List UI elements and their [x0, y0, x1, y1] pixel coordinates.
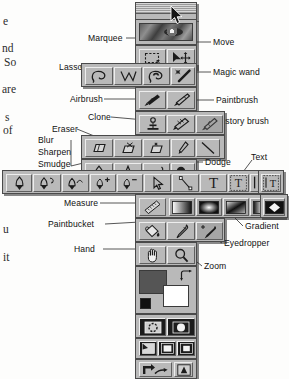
tool-angle-gradient[interactable] [223, 198, 249, 216]
callout-label-smudge: Smudge [38, 160, 71, 169]
tool-eyedropper[interactable] [167, 222, 195, 240]
freeform-pen-icon [66, 176, 85, 191]
pencil-icon [176, 141, 191, 155]
toolbox-titlebar[interactable] [136, 3, 196, 14]
eyedropper-icon [172, 224, 191, 239]
callout-label-paintbucket: Paintbucket [48, 220, 94, 229]
type-mask-icon: T [230, 175, 247, 191]
tool-measure[interactable] [139, 198, 166, 216]
toolbox-lasso-row [81, 63, 197, 87]
callout-label-airbrush: Airbrush [70, 95, 103, 104]
standard-mode-button[interactable] [139, 318, 166, 336]
imageready-badge[interactable] [174, 362, 193, 377]
standard-mode-icon [144, 321, 162, 334]
clone-stamp-icon [144, 117, 162, 131]
tool-direct-selection[interactable] [144, 174, 171, 192]
tool-lasso-freehand[interactable] [85, 67, 113, 85]
tool-freeform-pen[interactable] [62, 174, 89, 192]
line-icon [200, 141, 216, 155]
standard-screen-button[interactable] [139, 341, 157, 356]
tool-path-component[interactable] [172, 174, 199, 192]
tool-magic-wand[interactable] [171, 67, 195, 85]
callout-label-measure: Measure [64, 199, 98, 208]
toolbox-logo-panel [135, 19, 197, 45]
color-sampler-icon [200, 224, 219, 239]
add-anchor-point-icon [94, 176, 112, 191]
jump-to-imageready-button[interactable] [139, 362, 172, 377]
background-color-swatch[interactable] [163, 285, 189, 307]
tool-paintbucket[interactable] [139, 222, 166, 240]
radial-gradient-icon [199, 201, 219, 214]
full-screen-button[interactable] [177, 341, 195, 356]
svg-text:T: T [235, 176, 243, 190]
svg-text:T: T [270, 178, 277, 189]
path-component-icon [178, 176, 194, 191]
tool-magic-eraser[interactable] [143, 139, 170, 157]
tool-vertical-type-mask-panel: T [258, 170, 284, 194]
hand-icon [144, 248, 161, 263]
angle-gradient-icon [226, 201, 246, 214]
callout-label-hand: Hand [74, 245, 95, 254]
callout-label-blur: Blur [38, 136, 54, 145]
default-colors-icon[interactable] [140, 298, 151, 309]
tool-diamond-gradient[interactable] [263, 198, 285, 216]
direct-selection-arrow-icon [151, 176, 165, 191]
jump-to-imageready-icon [142, 363, 170, 376]
tool-radial-gradient[interactable] [196, 198, 222, 216]
toolbox-titlebar-panel[interactable] [135, 2, 197, 20]
callout-label-lasso: Lasso [59, 63, 82, 72]
tool-history-brush[interactable] [196, 115, 223, 133]
callout-label-move: Move [213, 38, 234, 47]
figure-canvas: e nd So are s of u it [0, 0, 289, 379]
tool-type[interactable]: T [200, 174, 227, 192]
toolbox-pen-text-row: T T T [2, 170, 278, 194]
linear-gradient-icon [172, 201, 192, 214]
history-brush-icon [200, 117, 219, 131]
magnetic-lasso-icon [147, 69, 166, 83]
callout-label-sharpen: Sharpen [38, 148, 71, 157]
tool-clone-stamp[interactable] [139, 115, 166, 133]
diamond-gradient-icon [265, 201, 284, 214]
tool-pen[interactable] [6, 174, 32, 192]
measure-ruler-icon [143, 200, 162, 215]
tool-airbrush[interactable] [139, 91, 166, 109]
paintbrush-icon [172, 93, 191, 107]
tool-eraser[interactable] [85, 139, 113, 157]
tool-paintbrush[interactable] [167, 91, 195, 109]
tool-background-eraser[interactable] [114, 139, 142, 157]
tool-diamond-gradient-panel [260, 194, 288, 218]
tool-linear-gradient[interactable] [169, 198, 195, 216]
vertical-type-mask-icon: T [263, 175, 279, 191]
imageready-icon [177, 364, 191, 376]
lasso-icon [90, 69, 109, 83]
tool-lasso-magnetic[interactable] [143, 67, 170, 85]
tool-pattern-stamp[interactable] [167, 115, 195, 133]
tool-line[interactable] [196, 139, 220, 157]
screen-modes-panel [135, 338, 197, 359]
tool-type-mask[interactable]: T [228, 174, 249, 192]
tool-magnetic-pen[interactable] [33, 174, 61, 192]
mouse-cursor-icon [170, 6, 184, 26]
magic-eraser-icon [147, 142, 166, 155]
delete-anchor-point-icon [121, 176, 139, 191]
tool-zoom[interactable] [167, 246, 195, 264]
tool-lasso-polygon[interactable] [114, 67, 142, 85]
tool-color-sampler[interactable] [196, 222, 223, 240]
paintbucket-icon [143, 224, 162, 239]
magic-wand-icon [174, 69, 192, 83]
tool-pencil[interactable] [171, 139, 195, 157]
tool-delete-anchor-point[interactable] [117, 174, 143, 192]
tool-hand[interactable] [139, 246, 166, 264]
eraser-icon [90, 142, 109, 155]
quick-mask-mode-button[interactable] [167, 318, 195, 336]
tool-vertical-type-mask[interactable]: T [261, 174, 281, 192]
color-controls-panel [135, 266, 197, 314]
quick-mask-mode-icon [172, 321, 190, 334]
jump-to-panel [135, 359, 197, 379]
full-screen-icon [180, 343, 193, 354]
swap-colors-icon[interactable] [180, 270, 193, 282]
airbrush-icon [143, 93, 162, 107]
full-screen-menubar-button[interactable] [158, 341, 176, 356]
pattern-stamp-icon [172, 117, 191, 131]
tool-add-anchor-point[interactable] [90, 174, 116, 192]
